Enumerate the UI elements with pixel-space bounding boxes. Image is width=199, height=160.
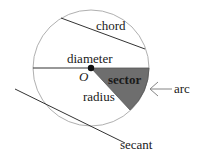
sector-label: sector [108, 72, 141, 87]
diameter-label: diameter [67, 51, 113, 66]
radius-label: radius [83, 89, 115, 104]
center-label: O [79, 69, 89, 84]
secant-label: secant [120, 137, 153, 152]
circle-diagram: chord diameter O sector radius arc secan… [0, 0, 199, 160]
arc-label: arc [174, 81, 190, 96]
chord-label: chord [96, 18, 126, 33]
